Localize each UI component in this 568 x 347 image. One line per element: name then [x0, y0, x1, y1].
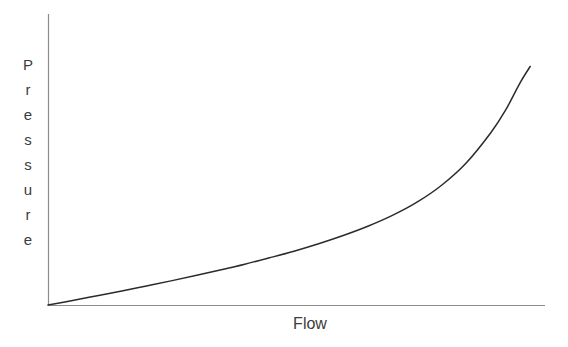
data-curve-pressure-vs-flow — [48, 67, 530, 306]
x-axis-title: Flow — [0, 315, 568, 333]
x-axis-title-text: Flow — [293, 315, 327, 333]
chart-plot-area — [0, 0, 568, 347]
y-axis-title-glyph: s — [14, 152, 42, 177]
y-axis-title-glyph: e — [14, 227, 42, 252]
y-axis-title-glyph: s — [14, 127, 42, 152]
y-axis-title-glyph: e — [14, 102, 42, 127]
y-axis-title: Pressure — [14, 52, 42, 252]
y-axis-title-glyph: P — [14, 52, 42, 77]
y-axis-title-glyph: r — [14, 77, 42, 102]
y-axis-title-glyph: r — [14, 202, 42, 227]
pressure-flow-chart: Pressure Flow — [0, 0, 568, 347]
y-axis-title-glyph: u — [14, 177, 42, 202]
